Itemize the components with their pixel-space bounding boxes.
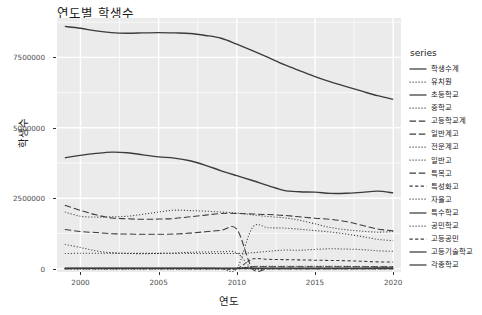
legend-item[interactable]: 특목고 — [408, 167, 482, 180]
y-tick-label: 2500000 — [13, 194, 45, 203]
x-tick-label: 2000 — [71, 278, 89, 287]
legend-key-icon — [408, 246, 428, 258]
legend-label: 전문계고 — [431, 143, 459, 150]
legend-item[interactable]: 공민학교 — [408, 219, 482, 232]
legend-item[interactable]: 고등기술학교 — [408, 245, 482, 258]
series-line — [65, 225, 393, 272]
legend-key-icon — [408, 193, 428, 205]
legend-items: 학생수계유치원초등학교중학교고등학교계일반계고전문계고일반고특목고특성화고자율고… — [408, 62, 482, 272]
x-axis-ticks: 20002005201020152020 — [57, 272, 401, 292]
series-line — [65, 152, 393, 193]
y-tick-label: 7500000 — [13, 53, 45, 62]
legend-key-icon — [408, 115, 428, 127]
legend-item[interactable]: 각종학교 — [408, 258, 482, 271]
legend-label: 특성화고 — [431, 183, 459, 190]
legend-item[interactable]: 유치원 — [408, 75, 482, 88]
series-line — [65, 26, 393, 99]
x-tick-mark — [315, 272, 316, 275]
x-axis-title: 연도 — [57, 293, 401, 308]
x-tick-label: 2015 — [306, 278, 324, 287]
legend-key-icon — [408, 180, 428, 192]
x-tick-mark — [393, 272, 394, 275]
legend-label: 일반계고 — [431, 130, 459, 137]
legend-label: 유치원 — [431, 78, 452, 85]
legend-item[interactable]: 고등학교계 — [408, 114, 482, 127]
legend-key-icon — [408, 63, 428, 75]
legend-item[interactable]: 고등공민 — [408, 232, 482, 245]
legend-title: series — [410, 48, 482, 58]
legend-key-icon — [408, 259, 428, 271]
y-tick-mark — [53, 128, 56, 129]
legend-item[interactable]: 일반계고 — [408, 127, 482, 140]
y-tick-label: 5000000 — [13, 123, 45, 132]
legend-label: 특수학교 — [431, 209, 459, 216]
x-tick-mark — [159, 272, 160, 275]
legend-label: 각종학교 — [431, 261, 459, 268]
legend-label: 고등공민 — [431, 235, 459, 242]
legend-key-icon — [408, 233, 428, 245]
legend-key-icon — [408, 207, 428, 219]
legend-item[interactable]: 자율고 — [408, 193, 482, 206]
legend-key-icon — [408, 128, 428, 140]
legend-item[interactable]: 전문계고 — [408, 141, 482, 154]
x-tick-mark — [237, 272, 238, 275]
x-tick-label: 2005 — [149, 278, 167, 287]
legend-label: 고등기술학교 — [431, 248, 473, 255]
y-tick-mark — [53, 269, 56, 270]
legend-item[interactable]: 중학교 — [408, 101, 482, 114]
legend-label: 특목고 — [431, 170, 452, 177]
legend-label: 자율고 — [431, 196, 452, 203]
legend-item[interactable]: 특수학교 — [408, 206, 482, 219]
chart-container: 연도별 학생수 학생수 연도 0250000050000007500000 20… — [0, 0, 482, 315]
y-tick-mark — [53, 57, 56, 58]
legend-label: 고등학교계 — [431, 117, 466, 124]
legend-key-icon — [408, 220, 428, 232]
x-tick-mark — [80, 272, 81, 275]
x-tick-label: 2010 — [228, 278, 246, 287]
y-axis-ticks: 0250000050000007500000 — [0, 18, 52, 272]
legend-key-icon — [408, 89, 428, 101]
legend-item[interactable]: 특성화고 — [408, 180, 482, 193]
legend-key-icon — [408, 167, 428, 179]
legend-key-icon — [408, 141, 428, 153]
x-tick-label: 2020 — [384, 278, 402, 287]
y-tick-mark — [53, 198, 56, 199]
plot-panel — [57, 18, 401, 272]
legend-label: 일반고 — [431, 157, 452, 164]
legend-key-icon — [408, 102, 428, 114]
legend-label: 초등학교 — [431, 91, 459, 98]
series-line — [65, 205, 393, 231]
y-tick-label: 0 — [40, 264, 45, 273]
legend-item[interactable]: 학생수계 — [408, 62, 482, 75]
legend-item[interactable]: 일반고 — [408, 154, 482, 167]
legend-item[interactable]: 초등학교 — [408, 88, 482, 101]
legend-key-icon — [408, 76, 428, 88]
plot-svg — [57, 18, 401, 272]
legend: series 학생수계유치원초등학교중학교고등학교계일반계고전문계고일반고특목고… — [408, 48, 482, 272]
legend-label: 학생수계 — [431, 65, 459, 72]
legend-label: 공민학교 — [431, 222, 459, 229]
legend-key-icon — [408, 154, 428, 166]
legend-label: 중학교 — [431, 104, 452, 111]
